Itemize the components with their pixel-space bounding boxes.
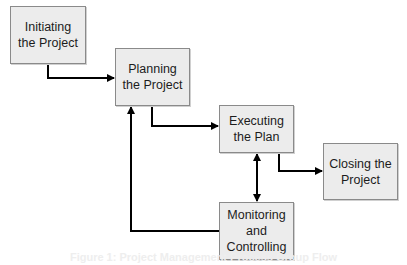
node-initiating: Initiating the Project — [10, 6, 86, 64]
node-label: Closing the Project — [329, 156, 392, 188]
node-label: Planning the Project — [123, 61, 183, 93]
figure-caption: Figure 1: Project Management Process Gro… — [0, 251, 407, 263]
node-label: Initiating the Project — [18, 19, 78, 51]
arrow-executing-to-closing — [279, 153, 322, 171]
node-closing: Closing the Project — [323, 143, 398, 200]
arrow-initiating-to-planning — [48, 64, 114, 78]
arrow-planning-to-executing — [152, 106, 218, 126]
node-label: Monitoring and Controlling — [227, 207, 287, 255]
node-executing: Executing the Plan — [219, 105, 294, 153]
node-label: Executing the Plan — [229, 113, 284, 145]
node-planning: Planning the Project — [115, 48, 190, 106]
